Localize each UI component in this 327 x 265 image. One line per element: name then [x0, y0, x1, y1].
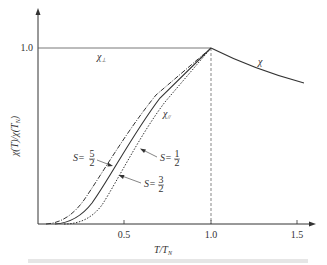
- s32-den: 2: [159, 183, 164, 194]
- s12-den: 2: [175, 157, 180, 168]
- s52-label: S=: [73, 152, 85, 163]
- chi-par-label: χ//: [162, 108, 172, 120]
- s12-label: S=: [160, 152, 172, 163]
- s32-arrowhead-icon: [119, 175, 125, 179]
- chi-par-s32-curve: [55, 48, 211, 224]
- chart: 0.5 1.0 1.5 1.0 χ⊥ χ χ// S= 5 2 S= 1 2 S…: [0, 0, 327, 265]
- s52-arrowhead-icon: [108, 163, 114, 167]
- y-axis-label: χ(T)/χ(TN): [9, 115, 21, 157]
- x-tick-label-05: 0.5: [118, 229, 131, 240]
- x-axis-label: T/TN: [154, 244, 173, 256]
- x-tick-label-10: 1.0: [205, 229, 218, 240]
- x-axis-arrow-icon: [309, 222, 316, 227]
- s12-arrowhead-icon: [140, 149, 146, 154]
- s32-arrow: [122, 176, 141, 183]
- s52-den: 2: [90, 157, 95, 168]
- chi-par-s52-curve: [46, 48, 211, 224]
- caption-strip: [28, 259, 308, 263]
- chi-perp-label: χ⊥: [96, 51, 106, 63]
- chi-label: χ: [257, 56, 263, 67]
- y-tick-label-1: 1.0: [21, 42, 34, 53]
- x-tick-label-15: 1.5: [291, 229, 304, 240]
- y-axis-arrow-icon: [36, 8, 41, 15]
- s32-label: S=: [144, 178, 156, 189]
